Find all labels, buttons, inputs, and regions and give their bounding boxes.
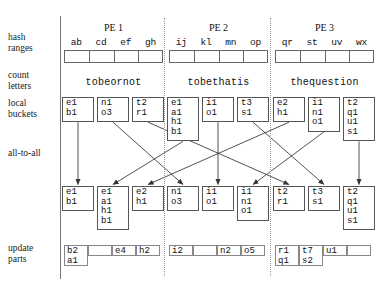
update-part-2-3[interactable]: n2	[217, 245, 241, 256]
local-bucket-1-3[interactable]: t2r1	[132, 97, 164, 122]
update-part-entry: t7	[302, 246, 320, 256]
bucket-entry: b1	[101, 217, 126, 227]
update-part-entry: i2	[172, 246, 190, 256]
hash-range-label: gh	[138, 37, 163, 48]
pe-divider-1	[164, 18, 165, 276]
update-part-1-1[interactable]: b2a1	[64, 245, 88, 266]
update-part-2-1[interactable]: i2	[169, 245, 193, 256]
update-part-entry: h2	[139, 246, 157, 256]
row-label-line: letters	[8, 81, 60, 92]
received-bucket-2-3[interactable]: i1n1o1	[237, 186, 269, 221]
update-part-entry: b2	[67, 246, 85, 256]
row-label-line: all-to-all	[8, 148, 60, 159]
hash-range-strip-3	[275, 50, 374, 63]
bucket-entry: b1	[171, 128, 196, 138]
received-bucket-2-1[interactable]: n1o3	[167, 186, 199, 211]
left-vertical-rule	[60, 16, 61, 279]
hash-range-letters-2: ijklmnop	[169, 37, 268, 48]
update-part-2-4[interactable]: o5	[241, 245, 265, 256]
bucket-entry: s1	[241, 109, 266, 119]
bucket-entry: o1	[241, 207, 266, 217]
local-bucket-3-2[interactable]: i1n1o1	[308, 97, 340, 132]
bucket-entry: o3	[101, 109, 126, 119]
bucket-entry: h1	[136, 198, 161, 208]
row-label-line: buckets	[8, 109, 60, 120]
update-part-entry: u1	[326, 246, 344, 256]
row-label-line: ranges	[8, 43, 60, 54]
pe-title-2: PE 2	[167, 22, 270, 33]
bucket-entry: s1	[312, 198, 337, 208]
bucket-entry: s1	[347, 217, 372, 227]
hash-range-label: ef	[114, 37, 139, 48]
hash-range-cell[interactable]	[243, 50, 268, 63]
received-bucket-3-2[interactable]: t3s1	[308, 186, 340, 211]
update-part-3-3[interactable]: u1	[323, 245, 347, 256]
row-label-line: parts	[8, 254, 60, 265]
local-bucket-3-3[interactable]: t2q1u1s1	[343, 97, 375, 141]
hash-range-label: ab	[64, 37, 89, 48]
hash-range-cell[interactable]	[138, 50, 163, 63]
bucket-entry: o1	[312, 118, 337, 128]
pe-title-1: PE 1	[62, 22, 165, 33]
update-part-3-4[interactable]	[347, 245, 371, 256]
hash-range-cell[interactable]	[89, 50, 114, 63]
hash-range-cell[interactable]	[194, 50, 219, 63]
update-part-2-2[interactable]	[193, 245, 217, 256]
hash-range-cell[interactable]	[325, 50, 350, 63]
row-label-all-to-all: all-to-all	[8, 148, 60, 159]
hash-range-label: cd	[89, 37, 114, 48]
received-bucket-1-2[interactable]: e1a1h1b1	[97, 186, 129, 230]
local-bucket-1-1[interactable]: e1b1	[62, 97, 94, 122]
hash-range-cell[interactable]	[275, 50, 300, 63]
hash-range-cell[interactable]	[64, 50, 89, 63]
hash-range-label: kl	[194, 37, 219, 48]
update-part-3-2[interactable]: t7s2	[299, 245, 323, 266]
hash-range-label: st	[300, 37, 325, 48]
local-bucket-2-1[interactable]: e1a1h1b1	[167, 97, 199, 141]
local-bucket-2-3[interactable]: t3s1	[237, 97, 269, 122]
update-part-1-2[interactable]	[88, 245, 112, 256]
received-bucket-3-3[interactable]: t2q1u1s1	[343, 186, 375, 230]
count-letters-word-2: tobethatis	[167, 77, 270, 88]
hash-range-label: uv	[325, 37, 350, 48]
hash-range-cell[interactable]	[169, 50, 194, 63]
update-part-entry: q1	[278, 256, 296, 266]
hash-range-label: wx	[349, 37, 374, 48]
row-label-line: count	[8, 70, 60, 81]
hash-range-label: qr	[275, 37, 300, 48]
received-bucket-3-1[interactable]: t2r1	[273, 186, 305, 211]
row-label-hash-ranges: hashranges	[8, 32, 60, 53]
row-label-line: hash	[8, 32, 60, 43]
received-bucket-1-1[interactable]: e1b1	[62, 186, 94, 211]
received-bucket-2-2[interactable]: i1o1	[202, 186, 234, 211]
update-part-1-3[interactable]: e4	[112, 245, 136, 256]
local-bucket-2-2[interactable]: i1o1	[202, 97, 234, 122]
update-part-entry: s2	[302, 256, 320, 266]
hash-range-letters-3: qrstuvwx	[275, 37, 374, 48]
hash-range-cell[interactable]	[219, 50, 244, 63]
row-label-line: local	[8, 98, 60, 109]
local-bucket-3-1[interactable]: e2h1	[273, 97, 305, 122]
hash-range-label: ij	[169, 37, 194, 48]
row-label-count-letters: countletters	[8, 70, 60, 91]
bucket-entry: s1	[347, 128, 372, 138]
pe-title-3: PE 3	[273, 22, 376, 33]
bucket-entry: o3	[171, 198, 196, 208]
received-bucket-1-3[interactable]: e2h1	[132, 186, 164, 211]
hash-range-strip-1	[64, 50, 163, 63]
hash-range-cell[interactable]	[114, 50, 139, 63]
hash-range-cell[interactable]	[349, 50, 374, 63]
update-part-entry: r1	[278, 246, 296, 256]
hash-range-letters-1: abcdefgh	[64, 37, 163, 48]
row-label-update-parts: updateparts	[8, 243, 60, 264]
update-part-3-1[interactable]: r1q1	[275, 245, 299, 266]
bucket-entry: r1	[277, 198, 302, 208]
exchange-arrow	[253, 132, 324, 185]
local-bucket-1-2[interactable]: n1o3	[97, 97, 129, 122]
update-part-1-4[interactable]: h2	[136, 245, 160, 256]
hash-range-label: mn	[219, 37, 244, 48]
hash-range-cell[interactable]	[300, 50, 325, 63]
bucket-entry: b1	[66, 109, 91, 119]
bucket-entry: h1	[277, 109, 302, 119]
bucket-entry: b1	[66, 198, 91, 208]
